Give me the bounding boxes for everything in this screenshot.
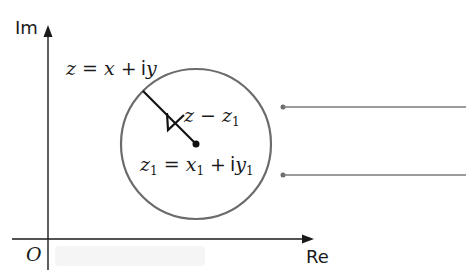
imaginary-axis-label: Im [15, 19, 38, 37]
diagram-graphics [0, 0, 474, 270]
radius-vector-label: z − z1 [184, 106, 240, 128]
z1-symbol: z [222, 104, 232, 126]
y-symbol: y [146, 57, 157, 79]
z-symbol: z [66, 57, 76, 79]
origin-label: O [26, 245, 42, 264]
minus-sign: − [200, 104, 216, 126]
z-symbol: z [184, 104, 194, 126]
equals-sign: = [82, 57, 98, 79]
y1-symbol: y [235, 153, 246, 175]
z1-subscript: 1 [232, 115, 240, 129]
z1-symbol: z [140, 153, 150, 175]
equals-sign: = [164, 153, 180, 175]
radius-arrowhead-icon [167, 113, 184, 130]
plus-sign: + [210, 153, 226, 175]
imaginary-axis-arrowhead-icon [44, 25, 53, 37]
y1-subscript: 1 [246, 164, 254, 178]
plus-sign: + [121, 57, 137, 79]
x-symbol: x [104, 57, 115, 79]
center-point-label: z1 = x1 +iy1 [140, 155, 254, 177]
real-axis-arrowhead-icon [302, 235, 314, 244]
center-point-dot [193, 141, 200, 148]
x1-symbol: x [186, 153, 197, 175]
x1-subscript: 1 [196, 164, 204, 178]
real-axis-label: Re [306, 248, 329, 266]
argand-diagram: Im Re O z = x +iy z − z1 z1 = x1 +iy1 [0, 0, 474, 270]
general-point-label: z = x +iy [66, 59, 157, 78]
z1-subscript: 1 [150, 164, 158, 178]
